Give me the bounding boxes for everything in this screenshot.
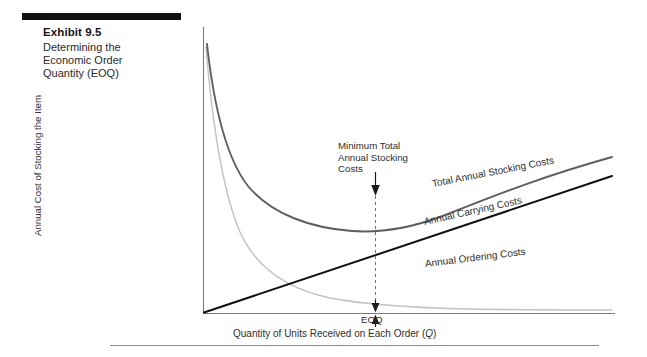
curve-total-annual-stocking-costs <box>207 44 612 231</box>
x-axis-label-prefix: Quantity of Units Received on Each Order… <box>233 328 425 339</box>
y-axis-label: Annual Cost of Stocking the Item <box>32 66 43 266</box>
curve-annual-carrying-costs <box>204 176 612 313</box>
exhibit-figure-page: Exhibit 9.5 Determining the Economic Ord… <box>0 0 647 357</box>
eoq-label: EOQ <box>361 314 383 325</box>
curve-annual-ordering-costs <box>206 47 612 310</box>
minimum-total-cost-annotation: Minimum Total Annual Stocking Costs <box>338 140 408 175</box>
eoq-chart: Annual Cost of Stocking the Item Quantit… <box>0 0 647 357</box>
chart-plot-svg <box>0 0 647 357</box>
x-axis-label-variable: Q <box>425 328 433 339</box>
x-axis-label: Quantity of Units Received on Each Order… <box>233 328 436 339</box>
x-axis-label-suffix: ) <box>433 328 436 339</box>
minimum-total-cost-arrow <box>371 172 379 196</box>
footer-divider-rule <box>110 345 599 346</box>
